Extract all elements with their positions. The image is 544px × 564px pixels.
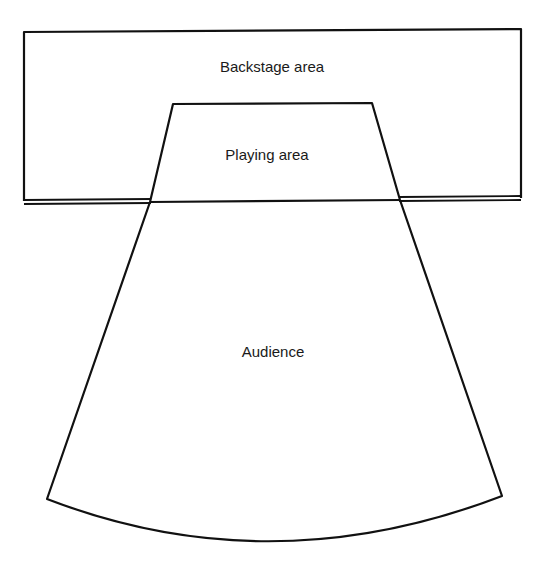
audience-area-outline: [47, 200, 502, 541]
backstage-area-label: Backstage area: [220, 58, 324, 75]
backstage-bottom-left-line-2: [24, 203, 151, 204]
playing-area-label: Playing area: [225, 146, 308, 163]
stage-front-edge: [150, 200, 400, 202]
backstage-bottom-left-line-1: [24, 199, 151, 200]
stage-diagram: [0, 0, 544, 564]
backstage-bottom-right-line-2: [399, 200, 521, 201]
backstage-bottom-right-line-1: [399, 196, 521, 197]
audience-label: Audience: [242, 343, 305, 360]
backstage-area-outline: [24, 29, 521, 201]
